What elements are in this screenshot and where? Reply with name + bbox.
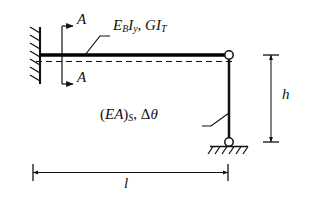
section-label-a-bottom: A bbox=[77, 70, 86, 85]
beam-properties-label: EBIy, GIT bbox=[113, 18, 166, 34]
fixed-wall-support bbox=[30, 27, 40, 84]
length-dimension-line bbox=[33, 164, 228, 181]
pinned-base-support bbox=[208, 138, 248, 154]
structural-frame-diagram: A A EBIy, GIT (EA)S, Δθ h l bbox=[0, 0, 320, 199]
strut-label-leader bbox=[202, 113, 229, 126]
hinge-circle-icon bbox=[225, 51, 233, 59]
beam-label-leader bbox=[85, 36, 110, 55]
section-label-a-top: A bbox=[77, 12, 86, 27]
length-dimension-label: l bbox=[124, 176, 128, 191]
height-dimension-line bbox=[263, 55, 279, 142]
height-dimension-label: h bbox=[282, 87, 290, 102]
strut-properties-label: (EA)S, Δθ bbox=[100, 107, 158, 123]
